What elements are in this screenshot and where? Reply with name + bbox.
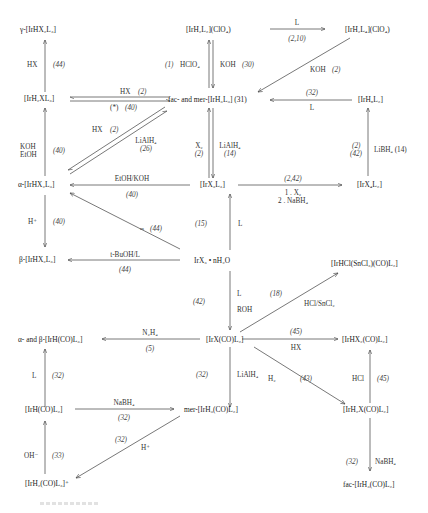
node-IrH5L2: [IrH₅L₂] (358, 96, 383, 104)
node-IrX-CO-L2: [IrX(CO)L₂] (206, 336, 243, 344)
label-nabh4-32-ref: (32) (118, 414, 130, 422)
label-hclo4-reagent: HClO₄ (180, 61, 200, 69)
label-n2h4-reagent: N₂H₄ (142, 329, 157, 337)
label-hx-2-diag-reagent: HX (92, 126, 102, 134)
label-koh-etoh-ref: (40) (53, 147, 65, 155)
label-x2-reagent: X₂ (195, 142, 203, 150)
label-x2-nabh4-ref: (2,42) (284, 175, 301, 183)
label-koh-30-ref: (30) (242, 61, 254, 69)
label-l-roh-reagent1: L (237, 290, 241, 298)
label-l-32-ref: (32) (306, 89, 318, 97)
reaction-scheme: γ-[IrHX₂L₃] [IrH₂L₂](ClO₄) [IrH₂L₄](ClO₄… (0, 0, 428, 513)
label-hclo4-ref: (1) (165, 61, 173, 69)
node-IrH2-CO-L3-plus: [IrH₂(CO)L₃]⁺ (25, 480, 69, 488)
label-h2-reagent: H₂ (268, 375, 276, 383)
faded-footer-text (40, 502, 100, 505)
label-hx-2-top-ref: (2) (138, 88, 146, 96)
label-etoh-koh-ref: (40) (126, 191, 138, 199)
label-x2-nabh4-step2: 2 . NaBH₄ (278, 197, 308, 205)
label-n2h4-ref: (5) (146, 345, 154, 353)
label-hplus-32-ref: (32) (115, 436, 127, 444)
node-fac-mer-IrH3L3: fac- and mer-[IrH₃L₃] (31) (168, 96, 247, 104)
node-alpha-IrHX2L3: α-[IrHX₂L₃] (18, 181, 55, 189)
label-etoh-koh-reagent: EtOH/KOH (115, 175, 149, 183)
label-star-40-ref: (40) (125, 104, 137, 112)
node-IrX3L3: [IrX₃L₃] (200, 181, 225, 189)
label-hplus-40-ref: (40) (53, 218, 65, 226)
label-lialh4-14-ref: (14) (224, 150, 236, 158)
label-lialh4-26-ref: (26) (140, 145, 152, 153)
label-hx-45-reagent: HX (291, 344, 301, 352)
label-hplus-32-reagent: H⁺ (141, 444, 150, 452)
label-hcl-45-reagent: HCl (352, 375, 364, 383)
node-IrH2XL3: [IrH₂XL₃] (24, 95, 54, 103)
label-star-40-reagent: (*) (110, 104, 118, 112)
label-l-32-reagent: L (310, 104, 314, 112)
label-hplus-40-reagent: H⁺ (28, 218, 37, 226)
node-IrX3-nH2O: IrX₃ • nH₂O (194, 257, 230, 265)
label-lialh4-26-reagent: LiAlH₄ (135, 137, 156, 145)
node-IrH2L2-ClO4: [IrH₂L₂](ClO₄) (186, 26, 231, 34)
label-libh4-ref1: (2) (352, 142, 360, 150)
node-mer-IrH3-CO-L2: mer-[IrH₃(CO)L₂] (184, 406, 238, 414)
node-IrX4L2: [IrX₄L₂] (357, 181, 382, 189)
node-IrH-CO-L2: [IrH(CO)L₂] (25, 406, 62, 414)
label-tbuoh-ref: (44) (119, 266, 131, 274)
label-oh-ref: (33) (52, 452, 64, 460)
label-hcl-sncl2-ref: (18) (270, 290, 282, 298)
label-hx-45-ref: (45) (290, 328, 302, 336)
label-diag-44-reagent: m (140, 225, 144, 233)
label-koh-etoh-reagent1: KOH (20, 143, 36, 151)
node-beta-IrHX2L3: β-[IrHX₂L₃] (19, 256, 55, 264)
label-oh-reagent: OH⁻ (24, 452, 38, 460)
label-l-roh-ref: (42) (193, 298, 205, 306)
node-IrHX2-CO-L2: [IrHX₂(CO)L₂] (342, 336, 387, 344)
label-x2-ref: (2) (195, 150, 203, 158)
label-hx-44-reagent: HX (27, 61, 37, 69)
label-lialh4-32-ref: (32) (196, 371, 208, 379)
label-libh4-reagent: LiBH₄ (14) (374, 146, 407, 154)
label-hcl-45-ref: (45) (377, 375, 389, 383)
label-l-32-left-ref: (32) (52, 372, 64, 380)
label-lialh4-14-reagent: LiAlH₄ (219, 142, 240, 150)
label-koh-30-reagent: KOH (220, 61, 236, 69)
node-gamma-IrHX2L3: γ-[IrHX₂L₃] (20, 26, 56, 34)
node-alpha-beta-IrH-CO-L3: α- and β-[IrH(CO)L₃] (18, 336, 82, 344)
label-koh-2-reagent: KOH (310, 66, 326, 74)
label-x2-nabh4-step1: 1 . X₂ (285, 189, 302, 197)
label-libh4-ref2: (42) (350, 150, 362, 158)
label-hx-2-top-reagent: HX (120, 88, 130, 96)
label-lialh4-32-reagent: LiAlH₄ (237, 371, 258, 379)
label-hx-2-diag-ref: (2) (110, 126, 118, 134)
label-nabh4-right-ref: (32) (346, 458, 358, 466)
label-hx-44-ref: (44) (53, 61, 65, 69)
label-nabh4-32-reagent: NaBH₄ (114, 399, 135, 407)
node-fac-IrH3-CO-L2: fac-[IrH₃(CO)L₂] (343, 481, 395, 489)
label-l-15-reagent: L (238, 220, 242, 228)
label-h2-ref: (43) (300, 375, 312, 383)
label-l-32-left-reagent: L (32, 372, 36, 380)
label-koh-2-ref: (2) (332, 66, 340, 74)
label-nabh4-right-reagent: NaBH₄ (375, 458, 396, 466)
node-IrH2L4-ClO4: [IrH₂L₄](ClO₄) (345, 26, 390, 34)
label-koh-etoh-reagent2: EtOH (20, 151, 37, 159)
node-IrH2X-CO-L2: [IrH₂X(CO)L₂] (343, 406, 388, 414)
label-l-2-10-ref: (2,10) (288, 35, 305, 43)
label-l-roh-reagent2: ROH (237, 306, 252, 314)
node-IrHCl-SnCl3-CO-L2: [IrHCl(SnCl₃)(CO)L₂] (331, 260, 398, 268)
label-hcl-sncl2-reagent: HCl/SnCl₂ (304, 300, 335, 308)
label-l-15-ref: (15) (195, 220, 207, 228)
label-l-2-10-reagent: L (295, 19, 299, 27)
label-diag-44-ref: (44) (150, 225, 162, 233)
label-tbuoh-reagent: t-BuOH/L (110, 251, 140, 259)
